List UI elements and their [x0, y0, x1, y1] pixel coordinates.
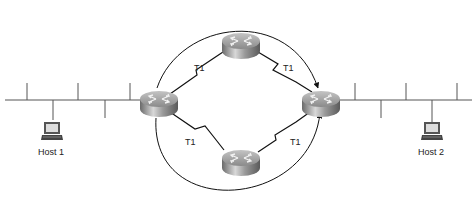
link-left-top [170, 52, 223, 94]
router-bottom-icon[interactable] [222, 150, 260, 176]
host1-computer-icon[interactable] [41, 122, 63, 140]
link-bottom-right [258, 112, 310, 152]
router-left-icon[interactable] [140, 91, 178, 117]
link-label-left-top: T1 [194, 63, 205, 73]
right-lan-bus [338, 83, 472, 122]
host1-label: Host 1 [38, 147, 64, 157]
host2-label: Host 2 [418, 147, 444, 157]
link-label-left-bottom: T1 [185, 137, 196, 147]
left-lan-bus [5, 83, 142, 120]
network-diagram: T1 T1 T1 T1 Host 1 Host 2 [0, 0, 476, 208]
link-label-bottom-right: T1 [290, 137, 301, 147]
host2-computer-icon[interactable] [421, 122, 443, 140]
router-right-icon[interactable] [302, 91, 340, 117]
link-left-bottom [170, 112, 224, 150]
link-label-top-right: T1 [283, 63, 294, 73]
router-top-icon[interactable] [222, 33, 260, 59]
